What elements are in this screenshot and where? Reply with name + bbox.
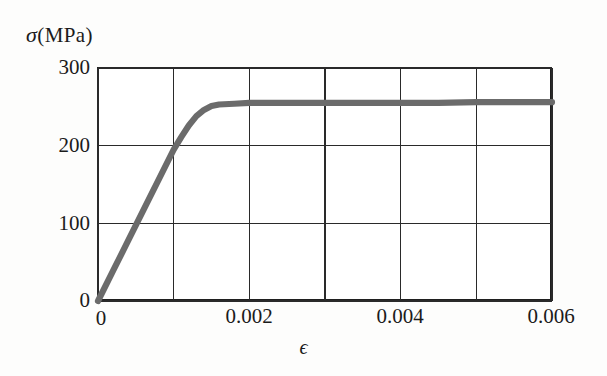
plot-canvas <box>97 67 553 302</box>
plot-area <box>97 67 551 300</box>
x-ticklabel-0: 0 <box>96 308 107 329</box>
stress-strain-figure: σ(MPa) 300 200 100 0 0 0.002 0.004 0.006… <box>0 0 607 376</box>
x-ticklabel-0.004: 0.004 <box>376 306 423 327</box>
x-axis-label: ϵ <box>0 336 607 359</box>
x-ticklabel-0.006: 0.006 <box>527 306 574 327</box>
x-ticklabel-0.002: 0.002 <box>225 306 272 327</box>
